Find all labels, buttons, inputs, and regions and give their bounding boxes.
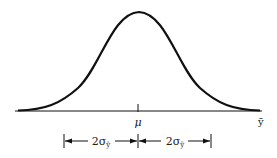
axis-label: ȳ <box>257 116 264 127</box>
normal-curve-diagram: μ ȳ 2σȳ 2σȳ <box>0 0 277 158</box>
mean-label: μ <box>134 116 141 129</box>
bell-curve <box>18 12 260 111</box>
arrow-right-icon <box>130 139 137 144</box>
arrow-left-icon <box>65 139 72 144</box>
right-interval-label: 2σȳ <box>166 135 185 149</box>
left-interval-label: 2σȳ <box>92 135 111 149</box>
arrow-right-icon <box>203 139 210 144</box>
arrow-left-icon <box>139 139 146 144</box>
